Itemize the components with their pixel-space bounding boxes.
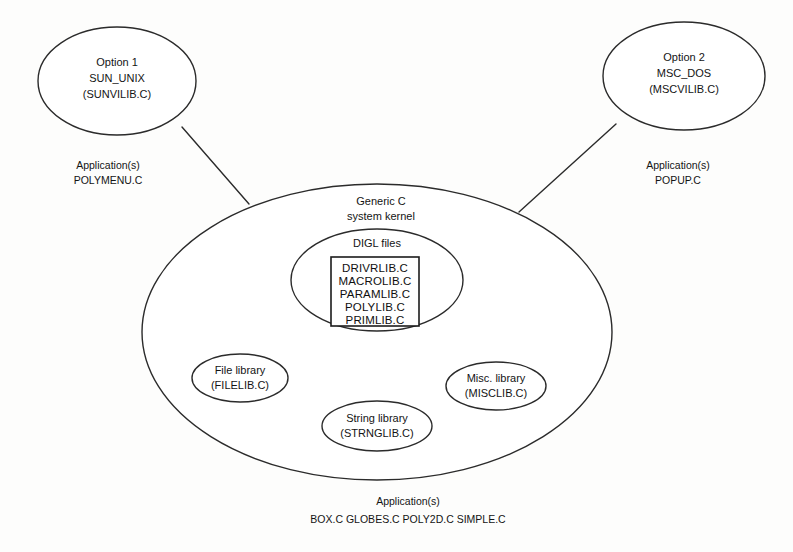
file-library-line1: File library xyxy=(215,364,266,376)
option-1-line3: (SUNVILIB.C) xyxy=(83,88,151,100)
option-2-line3: (MSCVILIB.C) xyxy=(649,83,719,95)
bottom-caption-line2: BOX.C GLOBES.C POLY2D.C SIMPLE.C xyxy=(310,513,506,525)
connector-option2-to-kernel xyxy=(519,124,616,212)
option-2-line2: MSC_DOS xyxy=(657,67,711,79)
system-architecture-diagram: Option 1 SUN_UNIX (SUNVILIB.C) Applicati… xyxy=(0,0,793,552)
digl-file-0: DRIVRLIB.C xyxy=(342,262,408,274)
digl-file-2: PARAMLIB.C xyxy=(340,288,410,300)
option-1-caption: Application(s) POLYMENU.C xyxy=(74,159,143,186)
connector-option1-to-kernel xyxy=(182,127,249,204)
bottom-caption-line1: Application(s) xyxy=(376,495,440,507)
file-library-node[interactable]: File library (FILELIB.C) xyxy=(192,354,288,402)
kernel-label-line1: Generic C xyxy=(356,195,406,207)
digl-files-node[interactable]: DIGL files DRIVRLIB.C MACROLIB.C PARAMLI… xyxy=(291,229,463,331)
diagram-canvas: Option 1 SUN_UNIX (SUNVILIB.C) Applicati… xyxy=(0,0,793,552)
string-library-node[interactable]: String library (STRNGLIB.C) xyxy=(322,401,432,451)
digl-files-label: DIGL files xyxy=(353,237,401,249)
misc-library-line2: (MISCLIB.C) xyxy=(465,387,527,399)
string-library-line2: (STRNGLIB.C) xyxy=(340,427,413,439)
digl-file-4: PRIMLIB.C xyxy=(346,314,405,326)
option-2-caption-line1: Application(s) xyxy=(646,159,710,171)
option-1-line2: SUN_UNIX xyxy=(89,72,145,84)
option-2-caption: Application(s) POPUP.C xyxy=(646,159,710,186)
option-1-caption-line2: POLYMENU.C xyxy=(74,174,143,186)
kernel-label-line2: system kernel xyxy=(347,210,415,222)
string-library-line1: String library xyxy=(346,412,408,424)
misc-library-line1: Misc. library xyxy=(467,372,526,384)
option-2-node[interactable]: Option 2 MSC_DOS (MSCVILIB.C) xyxy=(603,22,765,130)
bottom-caption: Application(s) BOX.C GLOBES.C POLY2D.C S… xyxy=(310,495,506,525)
digl-file-3: POLYLIB.C xyxy=(345,301,405,313)
option-1-node[interactable]: Option 1 SUN_UNIX (SUNVILIB.C) xyxy=(38,27,196,135)
option-2-caption-line2: POPUP.C xyxy=(655,174,701,186)
file-library-line2: (FILELIB.C) xyxy=(211,379,269,391)
option-1-line1: Option 1 xyxy=(96,56,138,68)
option-2-line1: Option 2 xyxy=(663,51,705,63)
option-1-caption-line1: Application(s) xyxy=(76,159,140,171)
misc-library-node[interactable]: Misc. library (MISCLIB.C) xyxy=(446,362,546,410)
digl-file-1: MACROLIB.C xyxy=(338,275,411,287)
